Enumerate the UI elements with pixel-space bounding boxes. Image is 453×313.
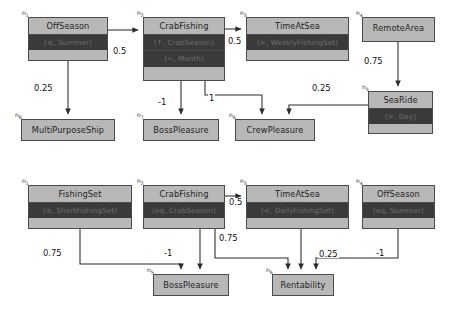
node-top-multipurposeship[interactable]: MultiPurposeShip [21,119,115,141]
node-title: OffSeason [29,18,107,34]
node-title: OffSeason [363,186,434,202]
node-top-remotearea[interactable]: RemoteArea [362,17,435,42]
node-id-top-n4: n4 [356,10,363,17]
node-id-bottom-n6: n6 [266,267,273,274]
edge-weight-bottom-n1-n5: 0.75 [42,249,63,257]
node-title: CrabFishing [144,186,224,202]
node-top-crabfishing[interactable]: CrabFishing (↑, CrabSeason) (=, Month) [143,17,225,81]
node-condition: (<, DailyFishingSet) [247,202,348,218]
node-bottom-fishingset[interactable]: FishingSet (≤, ShortFishingSet) [28,185,132,229]
node-title: Rentability [273,275,333,295]
node-id-bottom-n4: n4 [356,178,363,185]
node-condition: (≤, ShortFishingSet) [29,202,131,218]
node-condition: (>, WeeklyFishingSet) [247,34,348,50]
edge-weight-bottom-n4-n6: -1 [375,249,385,257]
node-title: FishingSet [29,186,131,202]
node-condition: (≤, Summer) [29,34,107,50]
node-top-offseason[interactable]: OffSeason (≤, Summer) [28,17,108,61]
node-title: MultiPurposeShip [22,120,114,140]
node-condition: (eq, Summer) [363,202,434,218]
node-bottom-rentability[interactable]: Rentability [272,274,334,296]
node-id-bottom-n3: n3 [240,178,247,185]
node-condition: (>, Day) [369,108,432,124]
node-top-timeatsea[interactable]: TimeAtSea (>, WeeklyFishingSet) [246,17,349,61]
node-id-top-n1: n1 [22,10,29,17]
node-id-top-n2: n2 [137,10,144,17]
edge-weight-bottom-n2-n3: 0.5 [228,198,243,206]
node-bottom-offseason[interactable]: OffSeason (eq, Summer) [362,185,435,229]
node-id-top-n7: n7 [137,112,144,119]
node-top-bosspleasure[interactable]: BossPleasure [143,119,219,141]
edge-weight-bottom-n2-n6: 0.75 [218,234,239,242]
edge-weight-top-n4-n5: 0.75 [363,57,384,65]
node-title: CrewPleasure [236,120,314,140]
node-id-top-n5: n5 [362,84,369,91]
node-title: BossPleasure [144,120,218,140]
edge-weight-top-n5-n6: 0.25 [311,84,332,92]
node-title: RemoteArea [363,18,434,38]
node-bottom-timeatsea[interactable]: TimeAtSea (<, DailyFishingSet) [246,185,349,229]
edge-weight-bottom-n2-n5: -1 [163,249,173,257]
edge-weight-bottom-extra-n6: 0.25 [318,250,339,258]
node-title: SeaRide [369,92,432,108]
node-condition: (eq, CrabSeason) [144,202,224,218]
node-id-bottom-n1: n1 [22,178,29,185]
edge-top-searide-crewpleasure [289,105,368,114]
node-id-top-n6: n6 [229,112,236,119]
node-id-top-n3: n3 [240,10,247,17]
edge-weight-top-n2-n6: 1 [208,94,215,102]
node-top-crewpleasure[interactable]: CrewPleasure [235,119,315,141]
node-condition-2: (=, Month) [144,50,224,66]
node-bottom-crabfishing[interactable]: CrabFishing (eq, CrabSeason) [143,185,225,229]
node-title: BossPleasure [154,275,228,295]
edge-weight-top-n1-n8: 0.25 [33,84,54,92]
node-id-bottom-n5: n5 [147,267,154,274]
node-id-top-n8: n8 [15,112,22,119]
node-top-searide[interactable]: SeaRide (>, Day) [368,91,433,134]
edge-weight-top-n2-n7: -1 [157,98,167,106]
node-title: TimeAtSea [247,18,348,34]
node-condition-1: (↑, CrabSeason) [144,34,224,50]
edge-weight-top-n2-n3: 0.5 [227,37,242,45]
diagram-canvas: n1 OffSeason (≤, Summer) n2 CrabFishing … [0,0,453,313]
node-title: TimeAtSea [247,186,348,202]
node-id-bottom-n2: n2 [137,178,144,185]
node-bottom-bosspleasure[interactable]: BossPleasure [153,274,229,296]
node-title: CrabFishing [144,18,224,34]
edge-weight-top-n1-n2: 0.5 [112,47,127,55]
